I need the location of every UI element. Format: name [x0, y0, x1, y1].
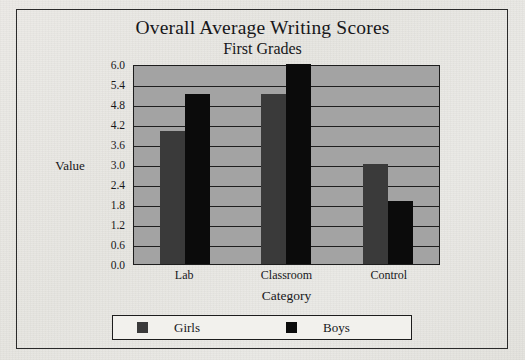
bar-classroom-girls	[261, 94, 286, 264]
y-axis-tick-label: 0.6	[111, 239, 125, 251]
x-axis-title: Category	[133, 288, 440, 304]
y-axis-tick-label: 1.2	[111, 219, 125, 231]
x-axis-tick-label: Lab	[134, 268, 234, 283]
x-axis-tick-labels: LabClassroomControl	[133, 268, 440, 283]
bars-layer	[134, 66, 439, 264]
y-axis-tick-label: 4.2	[111, 119, 125, 131]
bar-lab-girls	[160, 131, 185, 264]
x-axis-tick-label: Classroom	[236, 268, 336, 283]
y-axis-tick-label: 3.6	[111, 139, 125, 151]
bar-group-classroom	[261, 66, 311, 264]
y-axis-tick-label: 2.4	[111, 179, 125, 191]
plot-area	[133, 65, 440, 265]
bar-lab-boys	[185, 94, 210, 264]
bar-classroom-boys	[286, 64, 311, 264]
chart-subtitle: First Grades	[0, 39, 525, 59]
x-axis-tick-label: Control	[339, 268, 439, 283]
legend-swatch-icon	[286, 322, 297, 333]
bar-control-boys	[388, 201, 413, 264]
chart-title: Overall Average Writing Scores	[0, 16, 525, 39]
chart-figure: Overall Average Writing Scores First Gra…	[0, 0, 525, 360]
y-axis-tick-label: 3.0	[111, 159, 125, 171]
legend-entry-boys: Boys	[262, 320, 411, 336]
y-axis-tick-label: 1.8	[111, 199, 125, 211]
y-axis-tick-label: 6.0	[111, 59, 125, 71]
y-axis-tick-label: 0.0	[111, 259, 125, 271]
bar-group-control	[363, 66, 413, 264]
legend-entry-girls: Girls	[113, 320, 262, 336]
y-axis-tick-label: 5.4	[111, 79, 125, 91]
legend-label: Boys	[323, 320, 350, 336]
y-axis-tick-labels: 6.05.44.84.23.63.02.41.81.20.60.0	[88, 65, 130, 265]
y-axis-tick-label: 4.8	[111, 99, 125, 111]
bar-group-lab	[160, 66, 210, 264]
chart-legend: GirlsBoys	[112, 315, 412, 340]
title-block: Overall Average Writing Scores First Gra…	[0, 16, 525, 59]
legend-label: Girls	[174, 320, 200, 336]
bar-control-girls	[363, 164, 388, 264]
legend-swatch-icon	[137, 322, 148, 333]
